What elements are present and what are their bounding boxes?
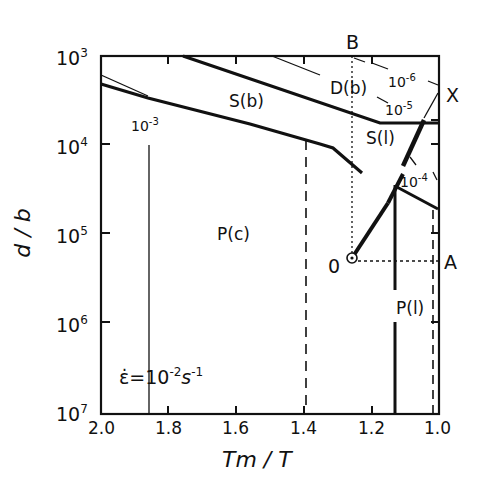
contour-db-line	[272, 56, 320, 75]
point-label-a: A	[444, 253, 457, 272]
point-label-x: X	[446, 86, 459, 105]
region-label-sl: S(l)	[366, 130, 395, 147]
y-tick-1e6: 106	[56, 314, 88, 335]
x-tick-1-8: 1.8	[155, 420, 182, 437]
x-axis-title: Tm / T	[222, 449, 292, 471]
path-to-x-thin	[424, 93, 438, 118]
point-o-dot	[350, 256, 353, 259]
path-o-x-lower	[352, 203, 388, 258]
point-label-o: 0	[328, 257, 340, 276]
contour-1e-4-connector	[410, 157, 416, 165]
contour-1e-6-connector	[372, 63, 388, 69]
y-axis-ticks	[101, 120, 439, 322]
x-tick-1-0: 1.0	[424, 420, 451, 437]
point-label-b: B	[346, 33, 359, 52]
contour-label-1e-5: 10-5	[385, 101, 413, 117]
strain-rate-annotation: ε̇=10-2s-1	[119, 366, 203, 387]
x-tick-1-6: 1.6	[222, 420, 249, 437]
y-tick-1e4: 104	[56, 136, 88, 157]
path-o-x-upper	[403, 120, 424, 166]
region-label-pc: P(c)	[217, 226, 250, 243]
region-label-sb: S(b)	[229, 93, 264, 110]
contour-label-1e-3: 10-3	[131, 117, 159, 133]
contour-1e-6-tick	[354, 58, 365, 62]
contour-label-1e-6: 10-6	[388, 73, 416, 89]
region-label-pl: P(l)	[396, 300, 424, 317]
region-label-db: D(b)	[330, 80, 367, 97]
x-tick-1-4: 1.4	[290, 420, 317, 437]
contour-1e-6-end	[428, 81, 438, 85]
contour-1e-4-end	[433, 172, 437, 180]
y-tick-1e5: 105	[56, 225, 88, 246]
x-tick-2-0: 2.0	[88, 420, 115, 437]
x-tick-1-2: 1.2	[358, 420, 385, 437]
y-axis-title: d / b	[12, 208, 34, 257]
y-tick-1e3: 103	[56, 47, 88, 68]
y-tick-1e7: 107	[56, 403, 88, 424]
contour-label-1e-4: 10-4	[400, 173, 428, 189]
